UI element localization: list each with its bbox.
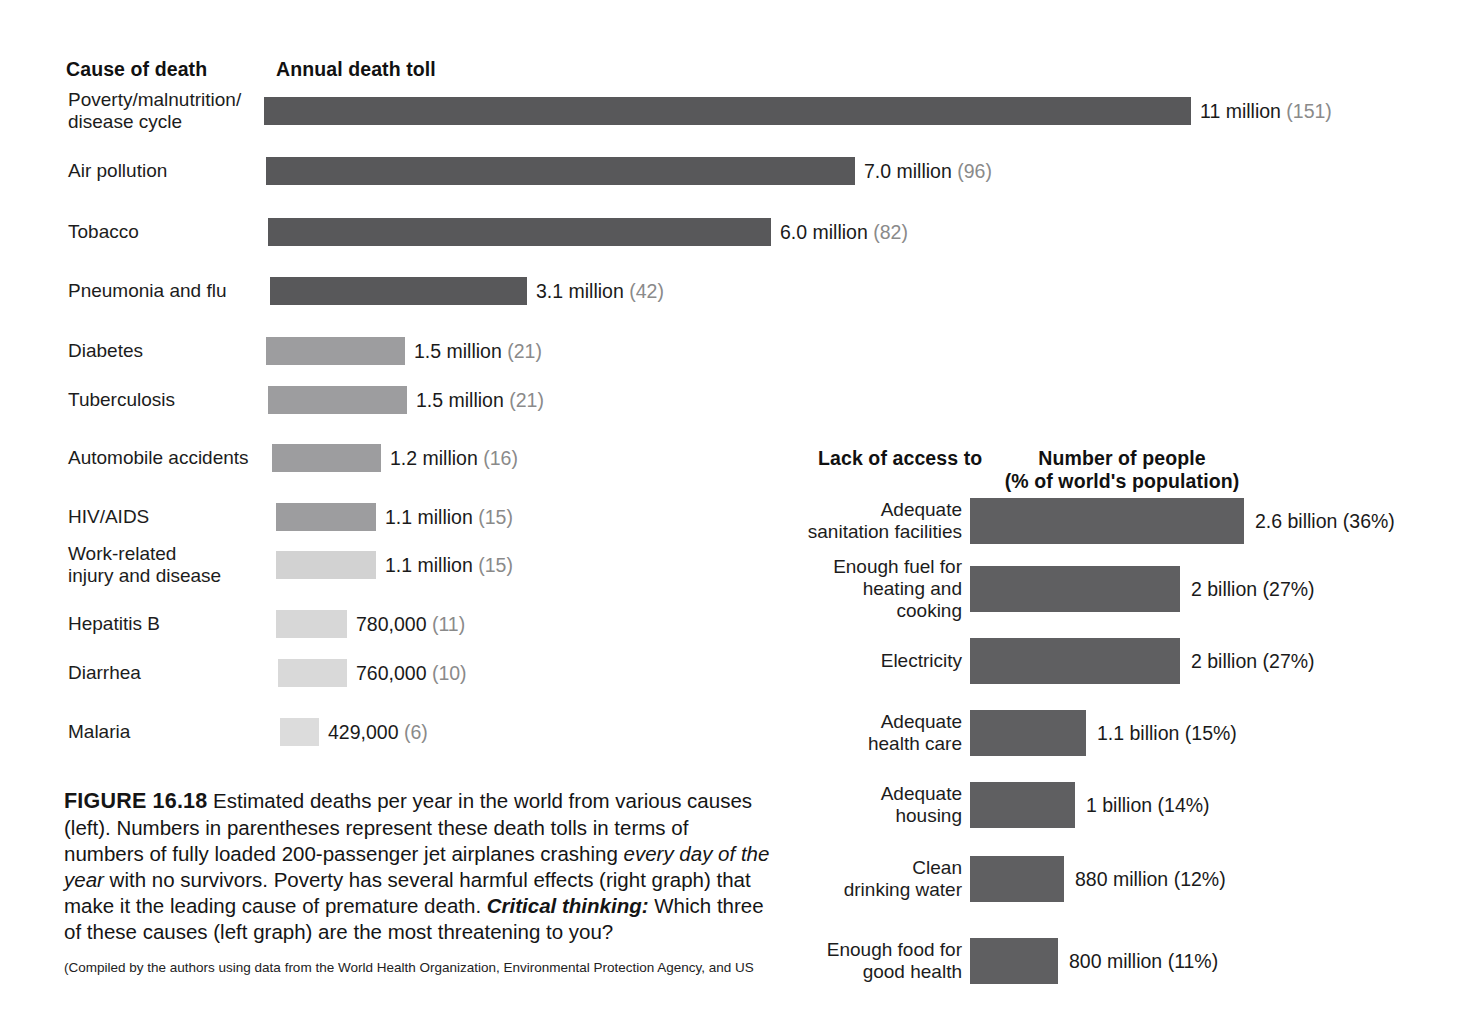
left-chart-bar-group: 7.0 million (96) <box>266 157 992 185</box>
left-chart-category-header: Cause of death <box>66 58 207 81</box>
right-chart-row: Electricity2 billion (27%) <box>800 630 1471 692</box>
left-chart-bar-value-parenthetical: (151) <box>1286 100 1332 122</box>
left-chart-bar-value-parenthetical: (96) <box>957 160 992 182</box>
left-chart-bar <box>278 659 347 687</box>
left-chart-row-label: Automobile accidents <box>68 447 260 469</box>
left-chart-bar-value-parenthetical: (21) <box>509 389 544 411</box>
left-chart-bar-value: 6.0 million (82) <box>780 221 908 244</box>
left-chart-bar-value-main: 6.0 million <box>780 221 873 243</box>
right-chart-row: Enough food for good health800 million (… <box>800 930 1471 992</box>
right-chart: Lack of access to Number of people (% of… <box>800 430 1471 1015</box>
left-chart-bar <box>264 97 1191 125</box>
left-chart-bar-value: 1.1 million (15) <box>385 554 513 577</box>
left-chart-bar-group: 11 million (151) <box>264 97 1332 125</box>
left-chart-bar-value-main: 11 million <box>1200 100 1286 122</box>
right-chart-row-label: Enough fuel for heating and cooking <box>800 556 962 623</box>
left-chart-bar-value-parenthetical: (16) <box>483 447 518 469</box>
left-chart-bar-value-main: 3.1 million <box>536 280 629 302</box>
left-chart-row-label: Poverty/malnutrition/ disease cycle <box>68 89 260 133</box>
right-chart-bar-group: 800 million (11%) <box>970 938 1218 984</box>
right-chart-bar-group: 2 billion (27%) <box>970 638 1315 684</box>
left-chart-row-label: Work-related injury and disease <box>68 543 260 587</box>
left-chart-row: Diarrhea760,000 (10) <box>0 653 800 693</box>
left-chart-row: Tobacco6.0 million (82) <box>0 212 800 252</box>
right-chart-bar-group: 880 million (12%) <box>970 856 1226 902</box>
left-chart-bar-group: 760,000 (10) <box>278 659 467 687</box>
left-chart-row: Diabetes1.5 million (21) <box>0 331 800 371</box>
left-chart-row-label: HIV/AIDS <box>68 506 260 528</box>
left-chart-bar-group: 780,000 (11) <box>276 610 465 638</box>
left-chart-bar-value-parenthetical: (11) <box>432 613 465 635</box>
left-chart-bar-group: 1.2 million (16) <box>272 444 518 472</box>
left-chart-row-label: Pneumonia and flu <box>68 280 260 302</box>
left-chart-bar <box>276 503 376 531</box>
right-chart-row-label: Adequate housing <box>800 783 962 827</box>
right-chart-row: Clean drinking water880 million (12%) <box>800 848 1471 910</box>
left-chart-bar-value: 760,000 (10) <box>356 662 467 685</box>
left-chart-bar-value: 3.1 million (42) <box>536 280 664 303</box>
left-chart-bar-group: 1.5 million (21) <box>268 386 544 414</box>
critical-thinking-label: Critical thinking: <box>487 894 649 917</box>
right-chart-bar <box>970 498 1244 544</box>
left-chart-bar-group: 1.5 million (21) <box>266 337 542 365</box>
right-chart-row-label: Enough food for good health <box>800 939 962 983</box>
left-chart-bar <box>268 218 771 246</box>
right-chart-bar <box>970 938 1058 984</box>
left-chart-bar-value-parenthetical: (21) <box>507 340 542 362</box>
left-chart-bar-value-main: 1.1 million <box>385 554 478 576</box>
right-chart-bar-group: 1.1 billion (15%) <box>970 710 1237 756</box>
left-chart-bar-value-parenthetical: (10) <box>432 662 467 684</box>
right-chart-bar-value: 800 million (11%) <box>1069 950 1218 973</box>
left-chart-bar <box>272 444 381 472</box>
left-chart-bar <box>266 157 855 185</box>
figure-number: FIGURE 16.18 <box>64 789 207 813</box>
left-chart-bar-value: 7.0 million (96) <box>864 160 992 183</box>
right-chart-bar-value: 1 billion (14%) <box>1086 794 1210 817</box>
left-chart-row: HIV/AIDS1.1 million (15) <box>0 497 800 537</box>
left-chart-row: Work-related injury and disease1.1 milli… <box>0 545 800 585</box>
left-chart-bar-value: 1.5 million (21) <box>416 389 544 412</box>
left-chart-row-label: Tobacco <box>68 221 260 243</box>
right-chart-bar-group: 1 billion (14%) <box>970 782 1210 828</box>
left-chart-bar-value: 1.2 million (16) <box>390 447 518 470</box>
right-chart-bar-value: 1.1 billion (15%) <box>1097 722 1237 745</box>
left-chart-bar <box>276 551 376 579</box>
left-chart-bar-value-main: 760,000 <box>356 662 432 684</box>
right-chart-bar <box>970 782 1075 828</box>
left-chart-row-label: Diabetes <box>68 340 260 362</box>
right-chart-row-label: Adequate health care <box>800 711 962 755</box>
right-chart-bar <box>970 566 1180 612</box>
right-chart-category-header: Lack of access to <box>818 447 982 470</box>
right-chart-row: Adequate sanitation facilities2.6 billio… <box>800 490 1471 552</box>
right-chart-bar-group: 2 billion (27%) <box>970 566 1315 612</box>
left-chart-row-label: Tuberculosis <box>68 389 260 411</box>
left-chart-bar-value: 780,000 (11) <box>356 613 465 636</box>
left-chart-row: Pneumonia and flu3.1 million (42) <box>0 271 800 311</box>
right-chart-bar <box>970 856 1064 902</box>
left-chart-bar-value-main: 1.2 million <box>390 447 483 469</box>
right-chart-row-label: Adequate sanitation facilities <box>800 499 962 543</box>
figure-caption: FIGURE 16.18 Estimated deaths per year i… <box>64 788 770 976</box>
left-chart-bar <box>270 277 527 305</box>
left-chart-bar <box>276 610 347 638</box>
left-chart-bar <box>280 718 319 746</box>
left-chart-bar <box>266 337 405 365</box>
left-chart-row-label: Hepatitis B <box>68 613 260 635</box>
left-chart-bar-value-main: 1.5 million <box>414 340 507 362</box>
left-chart-row: Poverty/malnutrition/ disease cycle11 mi… <box>0 91 800 131</box>
left-chart-bar-value-main: 1.5 million <box>416 389 509 411</box>
left-chart-bar-group: 1.1 million (15) <box>276 551 513 579</box>
left-chart-bar-group: 6.0 million (82) <box>268 218 908 246</box>
left-chart-bar-value-parenthetical: (82) <box>873 221 908 243</box>
left-chart-bar-value-parenthetical: (15) <box>478 554 513 576</box>
left-chart-bar <box>268 386 407 414</box>
left-chart-bar-value: 1.5 million (21) <box>414 340 542 363</box>
right-chart-row: Adequate health care1.1 billion (15%) <box>800 702 1471 764</box>
right-chart-bar <box>970 638 1180 684</box>
right-chart-row: Enough fuel for heating and cooking2 bil… <box>800 558 1471 620</box>
left-chart-bar-value: 1.1 million (15) <box>385 506 513 529</box>
left-chart: Cause of death Annual death toll Poverty… <box>0 0 800 790</box>
left-chart-row-label: Diarrhea <box>68 662 260 684</box>
left-chart-bar-value-parenthetical: (15) <box>478 506 513 528</box>
left-chart-bar-value: 11 million (151) <box>1200 100 1332 123</box>
